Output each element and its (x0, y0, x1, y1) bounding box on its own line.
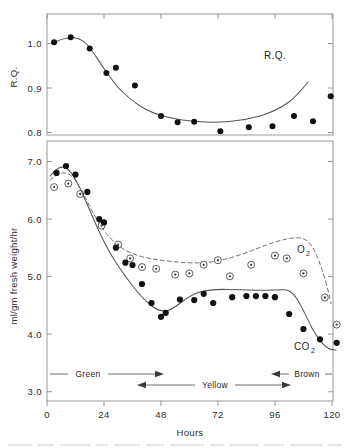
x-axis-title: Hours (177, 427, 204, 438)
top-ytick-0-8: 0.8 (28, 127, 42, 138)
phase-brown: Brown (271, 369, 332, 379)
co2-label-main: CO (294, 341, 310, 352)
xtick-0: 0 (44, 409, 50, 420)
bottom-panel-axis-title: ml/gm fresh weight/hr (8, 227, 19, 324)
top-ytick-0-9: 0.9 (28, 83, 42, 94)
cropped-caption-strip (8, 444, 342, 446)
top-panel: 1.0 0.9 0.8 R.Q. R.Q. (8, 14, 334, 138)
top-panel-frame (47, 14, 333, 135)
o2-curve (50, 173, 331, 304)
phase-green-label: Green (75, 369, 100, 379)
bottom-panel-y-ticks (47, 162, 52, 392)
xtick-120: 120 (323, 409, 340, 420)
xtick-48: 48 (155, 409, 166, 420)
bottom-ytick-3-0: 3.0 (28, 386, 42, 397)
o2-label-subscript: 2 (306, 250, 310, 257)
rq-series-label: R.Q. (264, 50, 286, 61)
co2-series-label: CO 2 (294, 341, 315, 354)
top-panel-y-ticks-right (328, 44, 333, 133)
o2-label-main: O (297, 244, 305, 255)
bottom-ytick-4-0: 4.0 (28, 329, 42, 340)
phase-yellow: Yellow (137, 380, 291, 390)
phase-brown-label: Brown (294, 369, 320, 379)
phase-green: Green (50, 369, 164, 379)
xtick-96: 96 (269, 409, 280, 420)
bottom-ytick-5-0: 5.0 (28, 271, 42, 282)
bottom-ytick-6-0: 6.0 (28, 214, 42, 225)
bottom-ytick-7-0: 7.0 (28, 156, 42, 167)
top-panel-top-ticks (47, 14, 332, 19)
bottom-panel: 7.0 6.0 5.0 4.0 3.0 ml/gm fresh weight/h… (8, 141, 340, 406)
top-panel-axis-title: R.Q. (8, 67, 19, 88)
bottom-panel-y-ticks-right (328, 162, 333, 392)
xtick-72: 72 (212, 409, 223, 420)
respiration-figure: 1.0 0.9 0.8 R.Q. R.Q. (0, 0, 349, 448)
o2-series-label: O 2 (297, 244, 310, 257)
phase-annotations: and <---- Brown --> Green Brown --> Yell… (50, 369, 332, 390)
figure-container: 1.0 0.9 0.8 R.Q. R.Q. (0, 0, 349, 448)
x-axis: 0 24 48 72 96 120 Hours (44, 409, 340, 438)
co2-label-subscript: 2 (311, 347, 315, 354)
phase-yellow-label: Yellow (202, 380, 229, 390)
rq-datapoints (51, 34, 334, 134)
xtick-24: 24 (98, 409, 109, 420)
top-panel-y-ticks (47, 44, 52, 133)
co2-curve (50, 167, 336, 350)
bottom-panel-x-ticks (47, 401, 332, 406)
top-ytick-1-0: 1.0 (28, 38, 42, 49)
